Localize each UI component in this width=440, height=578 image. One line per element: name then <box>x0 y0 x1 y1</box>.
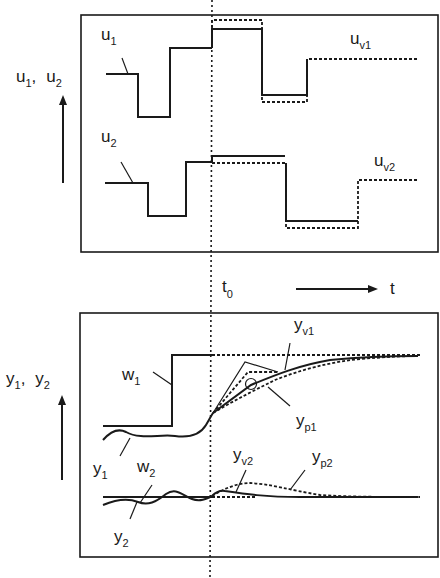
yp2-leader-line <box>290 470 305 490</box>
yv2-label: yv2 <box>233 445 253 467</box>
top-panel: u1 uv1 u2 uv2 u1,u2 <box>16 15 438 252</box>
top-axis-label: u1,u2 <box>16 67 62 89</box>
w2-label: w2 <box>136 457 155 479</box>
yv1-leader-line <box>285 343 290 370</box>
uv2-label: uv2 <box>374 151 395 173</box>
time-axis: t0 t <box>222 277 395 300</box>
u1-label: u1 <box>101 25 117 47</box>
yp2-label: yp2 <box>312 447 333 469</box>
y2-past-trace <box>103 491 212 505</box>
yp1-leader-line <box>268 387 290 406</box>
uv1-label: uv1 <box>350 29 371 51</box>
u1-leader-line <box>122 58 128 74</box>
y2-leader-line <box>130 502 137 519</box>
y1-leader-line <box>120 438 130 456</box>
w2-leader-line <box>140 485 152 503</box>
bottom-axis-arrow-head-icon <box>58 395 66 405</box>
uv1-variant-dashed <box>212 20 418 102</box>
time-arrow-head-icon <box>368 285 378 293</box>
bottom-axis-label: y1,y2 <box>6 369 50 391</box>
u2-label: u2 <box>101 127 117 149</box>
uv1-variant-solid <box>212 29 307 95</box>
y1-label: y1 <box>93 459 108 481</box>
yp1-label: yp1 <box>296 411 317 433</box>
top-axis-arrow-head-icon <box>59 95 67 105</box>
uv2-variant-solid-2 <box>286 163 358 221</box>
w1-label: w1 <box>121 365 140 387</box>
t0-label: t0 <box>222 277 233 300</box>
uv2-variant-solid <box>212 156 285 162</box>
w1-setpoint-trace <box>103 355 212 426</box>
y2-label: y2 <box>114 527 129 549</box>
bottom-panel: w1 y1 yv1 yp1 w2 y2 yv2 yp2 y1,y2 <box>6 313 438 557</box>
yv1-label: yv1 <box>294 315 314 337</box>
u2-past-trace <box>105 162 212 216</box>
yv2-leader-line <box>236 470 246 492</box>
mpc-diagram: u1 uv1 u2 uv2 u1,u2 t0 t <box>0 0 440 578</box>
w1-leader-line <box>153 372 172 385</box>
t0-marker-line <box>210 0 212 578</box>
top-panel-frame <box>81 15 438 252</box>
t-label: t <box>390 279 395 298</box>
yp2-prediction-dashed <box>212 483 420 497</box>
u2-leader-line <box>121 162 133 183</box>
